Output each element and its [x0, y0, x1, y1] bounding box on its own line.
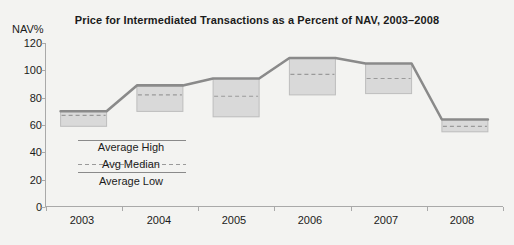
legend-label-average-low: Average Low [76, 175, 186, 187]
trend-path-average-high [61, 58, 488, 120]
range-box-2006 [289, 58, 335, 95]
chart-container: Price for Intermediated Transactions as … [0, 0, 514, 245]
plot-area [0, 0, 514, 245]
range-box-2003 [61, 111, 107, 126]
legend-label-average-high: Average High [76, 141, 186, 153]
x-tick-marks [47, 207, 504, 211]
legend-label-avg-median: Avg Median [76, 158, 186, 170]
y-tick-marks [42, 44, 46, 208]
average-high-trend-line [61, 58, 488, 120]
range-box-2008 [442, 120, 488, 132]
range-box-2004 [137, 85, 183, 111]
range-box-2005 [213, 79, 259, 117]
